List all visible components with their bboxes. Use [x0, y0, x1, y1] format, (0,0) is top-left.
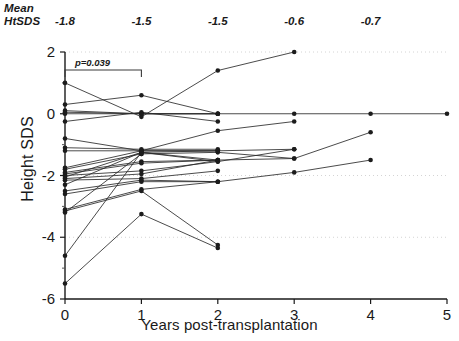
series-point [63, 192, 68, 197]
series-point [63, 281, 68, 286]
series-point [63, 253, 68, 258]
series-lines [65, 52, 447, 284]
mean-htsds-annotation: MeanHtSDS -1.8 -1.5 -1.5 -0.6 -0.7 [4, 2, 455, 40]
series-point [139, 93, 144, 98]
series-point [139, 172, 144, 177]
series-point [216, 111, 221, 116]
x-tick-label: 4 [351, 307, 391, 322]
series-line [65, 112, 447, 114]
series-point [216, 149, 221, 154]
mean-value-year-2: -1.5 [198, 15, 238, 28]
series-line [65, 121, 294, 150]
y-tick-label: -6 [17, 291, 55, 306]
x-tick-label: 1 [121, 307, 161, 322]
series-point [292, 170, 297, 175]
series-point [139, 179, 144, 184]
pvalue-annotation: p=0.039 [75, 57, 110, 68]
y-tick-label: 2 [17, 44, 55, 59]
x-tick-label: 0 [45, 307, 85, 322]
series-point [139, 110, 144, 115]
x-tick-label: 3 [274, 307, 314, 322]
series-point [292, 147, 297, 152]
series-point [292, 119, 297, 124]
y-tick-label: 0 [17, 106, 55, 121]
y-tick-label: -2 [17, 168, 55, 183]
mean-value-year-4: -0.7 [351, 15, 391, 28]
series-point [216, 246, 221, 251]
series-point [216, 179, 221, 184]
series-point [292, 111, 297, 116]
spaghetti-plot [0, 0, 459, 341]
mean-htsds-label-line2: HtSDS [4, 15, 40, 28]
mean-value-year-3: -0.6 [274, 15, 314, 28]
y-axis-title: Height SDS [19, 79, 37, 239]
series-point [445, 111, 450, 116]
series-point [63, 110, 68, 115]
series-point [139, 189, 144, 194]
series-point [216, 128, 221, 133]
series-point [139, 212, 144, 217]
series-point [63, 81, 68, 86]
pvalue-bracket [65, 70, 141, 77]
x-tick-label: 2 [198, 307, 238, 322]
series-line [65, 149, 294, 168]
figure-container: MeanHtSDS -1.8 -1.5 -1.5 -0.6 -0.7 Heigh… [0, 0, 459, 341]
series-point [63, 149, 68, 154]
axes [60, 52, 447, 304]
series-point [216, 169, 221, 174]
series-point [63, 178, 68, 183]
mean-value-year-1: -1.5 [121, 15, 161, 28]
series-point [63, 182, 68, 187]
series-point [216, 119, 221, 124]
series-point [368, 130, 373, 135]
series-point [63, 102, 68, 107]
gridlines [65, 52, 447, 237]
series-point [139, 161, 144, 166]
series-point [292, 156, 297, 161]
x-tick-label: 5 [427, 307, 459, 322]
series-point [63, 119, 68, 124]
series-point [368, 158, 373, 163]
series-point [292, 50, 297, 55]
mean-htsds-label: MeanHtSDS [4, 2, 40, 28]
mean-value-year-0: -1.8 [45, 15, 85, 28]
mean-htsds-label-line1: Mean [4, 2, 34, 14]
series-point [63, 136, 68, 141]
series-point [139, 150, 144, 155]
series-point [216, 159, 221, 164]
y-tick-label: -4 [17, 229, 55, 244]
series-point [63, 210, 68, 215]
series-point [368, 111, 373, 116]
series-points [63, 50, 450, 286]
series-point [216, 68, 221, 73]
